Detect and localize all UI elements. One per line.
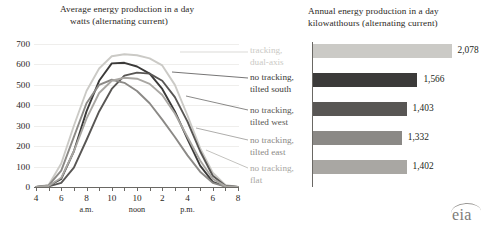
leader-line — [206, 150, 248, 168]
eia-logo: eia — [452, 206, 472, 224]
bar — [313, 102, 407, 116]
bar-row: 1,566 — [313, 73, 473, 87]
bar-value-label: 1,566 — [423, 74, 444, 84]
bar-row: 1,403 — [313, 102, 473, 116]
leader-line — [196, 128, 248, 140]
bar-row: 2,078 — [313, 44, 473, 58]
bar — [313, 73, 417, 87]
leader-line — [186, 96, 248, 110]
bar-value-label: 1,402 — [413, 161, 434, 171]
bar-value-label: 1,332 — [408, 132, 429, 142]
bar — [313, 160, 407, 174]
bar — [313, 44, 452, 58]
bar-value-label: 1,403 — [413, 103, 434, 113]
bar-row: 1,402 — [313, 160, 473, 174]
solar-energy-production-figure: Average energy production in a day watts… — [0, 0, 487, 238]
bar — [313, 131, 402, 145]
bar-row: 1,332 — [313, 131, 473, 145]
bar-value-label: 2,078 — [458, 45, 479, 55]
leader-line — [172, 72, 248, 78]
